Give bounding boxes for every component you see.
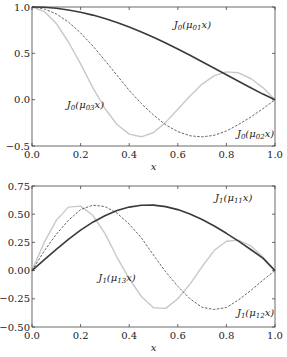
series-line [32, 206, 275, 308]
x-tick-label: 1.0 [267, 330, 283, 341]
x-axis-label: x [151, 161, 157, 172]
top-plot-j0: 0.00.20.40.60.81.0−0.50.00.51.0xJ0(μ01x)… [6, 2, 283, 173]
series-label: J0(μ02x) [235, 128, 274, 141]
y-tick-label: 0.25 [8, 237, 30, 248]
series-label: J0(μ01x) [172, 19, 211, 32]
series-line [32, 7, 275, 100]
x-tick-label: 0.6 [170, 149, 186, 160]
y-tick-label: 0.0 [14, 94, 30, 105]
series-label: J0(μ03x) [65, 99, 104, 112]
x-tick-label: 1.0 [267, 149, 283, 160]
x-tick-label: 0.2 [73, 330, 89, 341]
x-tick-label: 0.6 [170, 330, 186, 341]
x-tick-label: 0.4 [121, 330, 137, 341]
axes-frame [32, 7, 275, 146]
bessel-figure: 0.00.20.40.60.81.0−0.50.00.51.0xJ0(μ01x)… [0, 0, 287, 357]
series-line [32, 205, 275, 271]
series-line [32, 7, 275, 137]
y-tick-label: −0.50 [0, 322, 30, 333]
x-tick-label: 0.2 [73, 149, 89, 160]
y-tick-label: −0.25 [0, 293, 30, 304]
series-label: J1(μ12x) [235, 307, 274, 320]
x-tick-label: 0.8 [218, 149, 234, 160]
series-label: J1(μ11x) [213, 192, 252, 205]
bottom-plot-j1: 0.00.20.40.60.81.0−0.50−0.250.000.250.50… [0, 181, 283, 354]
y-tick-label: 0.00 [8, 265, 30, 276]
series-line [32, 205, 275, 309]
y-tick-label: 0.5 [14, 48, 30, 59]
series-label: J1(μ13x) [96, 272, 135, 285]
x-tick-label: 0.8 [218, 330, 234, 341]
y-tick-label: −0.5 [6, 141, 30, 152]
y-tick-label: 1.0 [14, 2, 30, 13]
x-axis-label: x [151, 342, 157, 353]
y-tick-label: 0.50 [8, 209, 30, 220]
y-tick-label: 0.75 [8, 181, 30, 192]
x-tick-label: 0.4 [121, 149, 137, 160]
series-line [32, 7, 275, 137]
